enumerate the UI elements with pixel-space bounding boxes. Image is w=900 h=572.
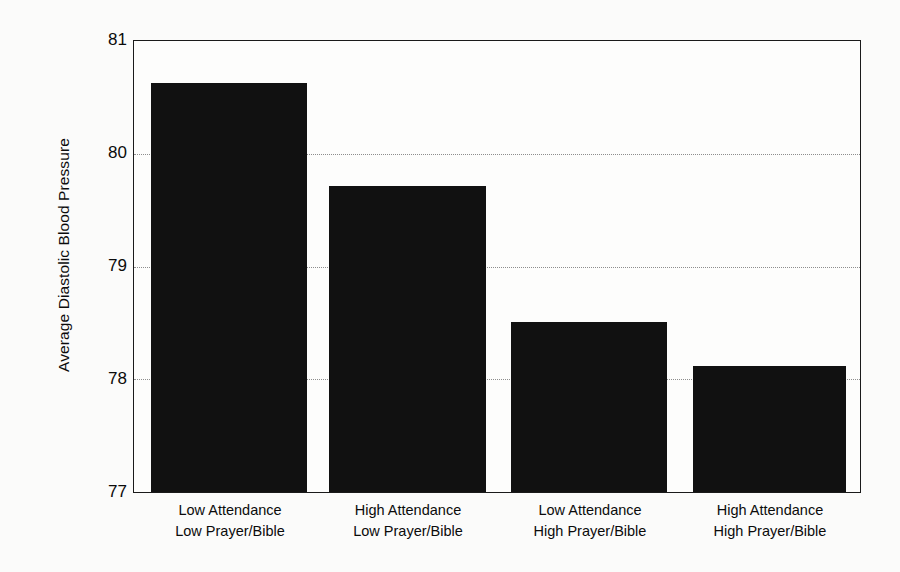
x-tick-line2: Low Prayer/Bible [139,521,321,542]
x-tick-label-4: High Attendance High Prayer/Bible [679,500,861,541]
x-axis-tick-labels: Low Attendance Low Prayer/Bible High Att… [133,500,861,560]
bar-high-attendance-high-prayer [693,366,846,492]
x-tick-line2: High Prayer/Bible [499,521,681,542]
bar-low-attendance-high-prayer [511,322,667,492]
x-tick-line1: High Attendance [717,502,823,518]
x-tick-line2: Low Prayer/Bible [317,521,499,542]
bar-high-attendance-low-prayer [329,186,486,492]
y-tick-label: 81 [81,31,127,48]
x-tick-line1: Low Attendance [538,502,641,518]
x-tick-label-2: High Attendance Low Prayer/Bible [317,500,499,541]
bar-chart-figure: Average Diastolic Blood Pressure 81 80 7… [0,0,900,572]
bar-low-attendance-low-prayer [151,83,307,492]
y-axis-title: Average Diastolic Blood Pressure [55,45,73,465]
x-tick-line1: Low Attendance [178,502,281,518]
y-axis-tick-labels: 81 80 79 78 77 [73,0,127,572]
x-tick-label-1: Low Attendance Low Prayer/Bible [139,500,321,541]
x-tick-label-3: Low Attendance High Prayer/Bible [499,500,681,541]
y-tick-label: 79 [81,257,127,274]
x-tick-line1: High Attendance [355,502,461,518]
x-tick-line2: High Prayer/Bible [679,521,861,542]
plot-area [133,40,861,493]
y-tick-label: 80 [81,144,127,161]
y-tick-label: 77 [81,483,127,500]
y-tick-label: 78 [81,370,127,387]
